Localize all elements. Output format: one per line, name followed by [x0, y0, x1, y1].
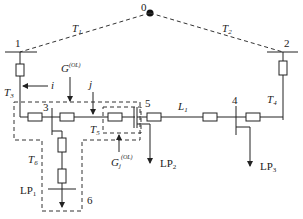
t5-impedance-left	[60, 113, 74, 121]
group-gi-label: G(OL)	[61, 62, 81, 74]
t3-secondary-impedance	[28, 113, 42, 121]
t4-secondary-impedance	[246, 113, 260, 121]
node-1-label: 1	[15, 37, 21, 49]
line-l1-label: L1	[177, 100, 188, 114]
node-3-label: 3	[43, 101, 49, 113]
node-6-label: 6	[87, 194, 93, 206]
node-2-label: 2	[284, 37, 290, 49]
l1-impedance-left	[147, 113, 161, 121]
t3-impedance	[16, 64, 24, 76]
branch-t1-line	[20, 13, 150, 52]
node-4-label: 4	[232, 94, 238, 106]
t4-impedance	[279, 61, 287, 75]
node-5-label: 5	[145, 97, 151, 109]
l1-impedance-right	[203, 113, 217, 121]
j-marker-label: j	[87, 78, 92, 90]
branch-t1-label: T1	[72, 22, 82, 36]
lp3-label: LP3	[260, 160, 277, 174]
branch-t5-label: T5	[90, 123, 100, 137]
t6-impedance-bottom	[58, 169, 66, 183]
power-network-diagram: 0 T1 T2 1 T3 i 2 T4 3 5 LP2 L1 4 LP3 T6	[0, 0, 303, 219]
node-0-label: 0	[141, 1, 147, 13]
branch-t4-label: T4	[267, 93, 277, 107]
t5-impedance-right	[108, 113, 122, 121]
i-marker-label: i	[51, 79, 54, 91]
branch-t3-label: T3	[4, 86, 14, 100]
t6-impedance-top	[58, 138, 66, 152]
branch-t2-line	[150, 13, 283, 52]
branch-t6-label: T6	[28, 153, 38, 167]
lp1-label: LP1	[20, 184, 37, 198]
branch-t2-label: T2	[222, 22, 232, 36]
lp2-label: LP2	[160, 157, 177, 171]
group-gj-label: Gj(OL)	[111, 154, 133, 170]
